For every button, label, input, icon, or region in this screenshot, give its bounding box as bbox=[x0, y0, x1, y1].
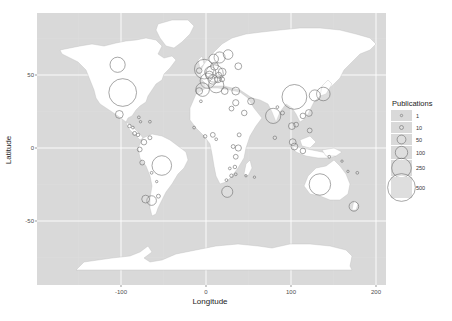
legend-bubble-icon bbox=[388, 174, 416, 202]
bubble-indonesia bbox=[300, 148, 306, 154]
bubble-australia bbox=[309, 174, 330, 195]
bubble-hong-kong bbox=[300, 113, 306, 119]
bubble-saudi-arabia bbox=[241, 110, 247, 116]
bubble-vietnam bbox=[294, 122, 299, 127]
bubble-papua-new-guinea bbox=[328, 155, 331, 158]
bubble-solomon-islands bbox=[341, 160, 343, 162]
bubble-belgium bbox=[205, 71, 213, 79]
bubble-zimbabwe bbox=[230, 174, 234, 178]
bubble-cuba bbox=[137, 116, 140, 119]
legend-bubble-icon bbox=[400, 114, 402, 116]
bubble-india bbox=[266, 108, 281, 123]
bubble-venezuela bbox=[148, 136, 152, 140]
bubble-ecuador bbox=[137, 147, 142, 152]
bubble-chile bbox=[142, 195, 150, 203]
bubble-honduras bbox=[132, 126, 135, 129]
bubble-mexico bbox=[115, 110, 123, 118]
bubble-nigeria bbox=[210, 132, 215, 137]
y-tick-label: -50 bbox=[25, 218, 34, 224]
legend-label: 10 bbox=[416, 125, 422, 131]
bubble-malawi bbox=[233, 165, 237, 169]
x-tick-label: 100 bbox=[286, 289, 297, 295]
bubble-hungary bbox=[220, 77, 225, 82]
y-tick-label: 50 bbox=[27, 72, 34, 78]
bubble-nepal bbox=[276, 106, 279, 109]
bubble-south-korea bbox=[309, 90, 320, 101]
bubble-iran bbox=[248, 98, 255, 105]
y-tick-label: 0 bbox=[31, 145, 35, 151]
bubble-madagascar bbox=[245, 175, 247, 177]
bubble-cameroon bbox=[215, 138, 218, 141]
legend-bubble-icon bbox=[400, 126, 404, 130]
bubble-colombia bbox=[141, 139, 147, 145]
x-tick-label: 0 bbox=[204, 289, 208, 295]
bubble-botswana bbox=[225, 179, 228, 182]
bubble-sri-lanka bbox=[273, 136, 277, 140]
bubble-kenya bbox=[235, 145, 241, 151]
bubble-ireland bbox=[196, 68, 202, 74]
bubble-turkey bbox=[232, 87, 240, 95]
bubble-uruguay bbox=[156, 194, 160, 198]
legend-label: 100 bbox=[416, 150, 425, 156]
bubble-denmark bbox=[211, 62, 219, 70]
legend-label: 250 bbox=[416, 165, 425, 171]
bubble-philippines bbox=[307, 128, 312, 133]
x-axis-title: Longitude bbox=[192, 297, 228, 306]
legend-bubble-icon bbox=[395, 146, 407, 158]
bubble-singapore bbox=[291, 143, 298, 150]
bubble-peru bbox=[140, 160, 145, 165]
legend-bubble-icon bbox=[397, 135, 406, 144]
bubble-egypt bbox=[229, 106, 234, 111]
bubble-south-africa bbox=[222, 186, 233, 197]
bubble-china bbox=[282, 85, 307, 110]
bubble-israel bbox=[233, 100, 239, 106]
bubble-guatemala bbox=[128, 124, 132, 128]
bubble-tanzania bbox=[233, 154, 238, 159]
bubble-greece bbox=[221, 88, 228, 95]
y-axis-title: Latitude bbox=[4, 135, 13, 164]
legend-label: 1 bbox=[416, 113, 419, 119]
bubble-map-chart: -1000100200500-50 Longitude Latitude Pub… bbox=[0, 0, 452, 321]
bubble-usa bbox=[109, 79, 137, 107]
bubble-panama bbox=[136, 133, 140, 137]
bubble-senegal bbox=[193, 126, 196, 129]
bubble-jamaica bbox=[139, 121, 141, 123]
bubble-mauritius bbox=[253, 176, 255, 178]
bubble-russia bbox=[235, 63, 242, 70]
bubble-vanuatu bbox=[347, 170, 349, 172]
bubble-uganda bbox=[231, 145, 235, 149]
bubble-bangladesh bbox=[281, 111, 285, 115]
bubble-portugal bbox=[196, 88, 203, 95]
x-tick-label: 200 bbox=[371, 289, 382, 295]
bubble-paraguay bbox=[156, 180, 158, 182]
bubble-brazil bbox=[152, 156, 172, 176]
bubble-bolivia bbox=[150, 171, 153, 174]
legend: Publications 11050100250500 bbox=[388, 99, 433, 201]
bubble-new-zealand bbox=[349, 202, 359, 212]
bubble-morocco bbox=[200, 100, 203, 103]
bubble-fiji bbox=[356, 171, 359, 174]
bubble-canada bbox=[110, 57, 125, 72]
bubble-czech-republic bbox=[216, 72, 222, 78]
x-tick-label: -100 bbox=[115, 289, 128, 295]
legend-label: 500 bbox=[416, 185, 425, 191]
bubble-ghana bbox=[203, 135, 207, 139]
bubble-finland bbox=[223, 50, 233, 60]
bubble-puerto-rico bbox=[149, 120, 152, 123]
legend-title: Publications bbox=[392, 99, 433, 108]
bubble-taiwan bbox=[305, 110, 312, 117]
bubble-mozambique bbox=[234, 173, 237, 176]
bubble-zambia bbox=[228, 167, 231, 170]
legend-label: 50 bbox=[416, 137, 422, 143]
bubble-ethiopia bbox=[237, 133, 241, 137]
